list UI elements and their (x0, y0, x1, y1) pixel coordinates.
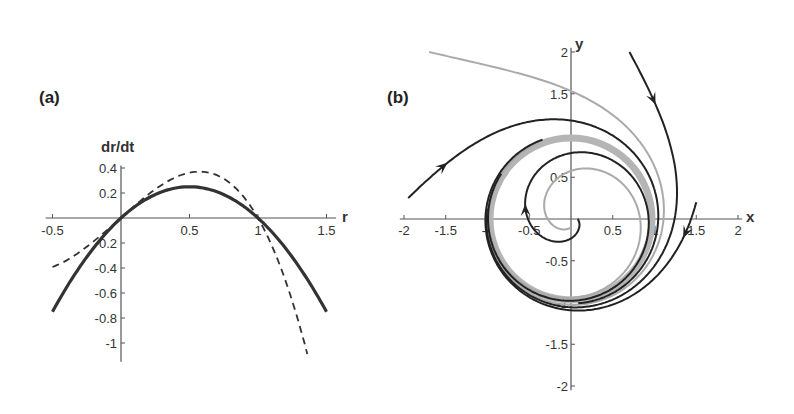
y-tick-label: -2 (556, 379, 568, 394)
x-tick-label: 2 (734, 223, 741, 238)
y-tick-label: 0.2 (99, 186, 117, 201)
y-tick-label: 2 (561, 45, 568, 60)
panel-b-label: (b) (387, 88, 409, 107)
x-tick-label: -2 (398, 223, 410, 238)
figure: (a) -0.50.511.50.40.2-0.2-0.4-0.6-0.8-1 … (0, 0, 794, 414)
x-tick-label: 1 (254, 223, 261, 238)
y-tick-label: -0.5 (546, 254, 568, 269)
panel-a-xlabel: r (342, 208, 348, 225)
panel-a-plot: -0.50.511.50.40.2-0.2-0.4-0.6-0.8-1 (41, 161, 336, 362)
y-tick-label: -0.6 (95, 286, 117, 301)
panel-a-ylabel: dr/dt (101, 138, 134, 155)
y-tick-label: -1.5 (546, 337, 568, 352)
solid-curve (53, 187, 327, 312)
trajectory (486, 52, 677, 307)
panel-a-label: (a) (39, 88, 60, 107)
panel-b-ylabel: y (575, 35, 584, 52)
y-tick-label: -0.4 (95, 261, 117, 276)
panel-b-plot: -2-1.5-1-0.50.511.5221.50.5-0.5-1-1.5-2 (398, 45, 742, 394)
x-tick-label: -1.5 (435, 223, 457, 238)
x-tick-label: 1.5 (317, 223, 335, 238)
x-tick-label: -0.5 (41, 223, 63, 238)
y-tick-label: 0.4 (99, 161, 117, 176)
x-tick-label: 0.5 (180, 223, 198, 238)
panel-b-xlabel: x (746, 208, 755, 225)
y-tick-label: -0.8 (95, 311, 117, 326)
x-tick-label: 0.5 (604, 223, 622, 238)
x-tick-label: -0.5 (518, 223, 540, 238)
dashed-curve (53, 172, 308, 354)
y-tick-label: -1 (105, 336, 117, 351)
